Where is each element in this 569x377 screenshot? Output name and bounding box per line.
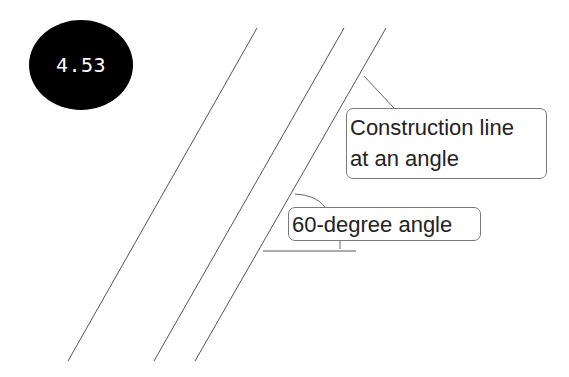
parallel-line-middle [154,28,344,361]
callout-angle-text: 60-degree angle [292,208,480,241]
parallel-line-left [68,28,257,361]
callout-construction-line-text-2: at an angle [350,143,546,174]
leader-line-construction [364,76,394,108]
callout-angle: 60-degree angle [288,207,481,241]
callout-construction-line: Construction line at an angle [346,108,547,179]
callout-construction-line-text-1: Construction line [350,112,546,143]
construction-line [195,28,386,361]
angle-arc [295,194,325,207]
drawing-canvas [0,0,569,377]
